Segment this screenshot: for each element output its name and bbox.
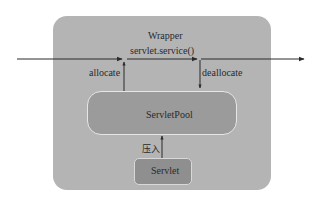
service-call-label: servlet.service(): [130, 45, 194, 57]
wrapper-label: Wrapper: [148, 30, 183, 42]
servlet-pool-label: ServletPool: [146, 109, 193, 121]
push-label: 压入: [142, 143, 160, 155]
allocate-label: allocate: [89, 67, 120, 79]
servlet-label: Servlet: [151, 165, 179, 177]
deallocate-label: deallocate: [202, 67, 243, 79]
